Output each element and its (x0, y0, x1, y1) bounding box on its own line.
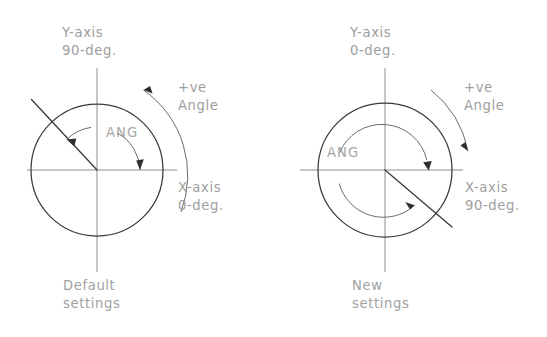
angle-arc-arrowhead-start-new (405, 202, 414, 210)
angle-arc-arrowhead-end-new (423, 161, 432, 170)
panel-caption-line1-default: Default (63, 278, 115, 293)
angle-convention-diagram: Y-axis 90-deg. X-axis 0-deg. +ve Angle A… (0, 0, 547, 337)
angle-label-new: ANG (327, 145, 359, 160)
x-axis-label-line2-default: 0-deg. (178, 198, 224, 213)
positive-direction-arc-new (431, 90, 468, 151)
x-axis-label-line1-new: X-axis (465, 180, 508, 195)
angle-arc-segment-left-default (67, 127, 91, 139)
positive-angle-label-line2-default: Angle (178, 98, 219, 113)
diagram-canvas: Y-axis 90-deg. X-axis 0-deg. +ve Angle A… (0, 0, 547, 337)
positive-angle-label-line2-new: Angle (464, 98, 505, 113)
panel-caption-line2-new: settings (352, 296, 409, 311)
panel-new: Y-axis 0-deg. X-axis 90-deg. +ve Angle A… (300, 25, 520, 311)
panel-caption-line2-default: settings (63, 296, 120, 311)
panel-default: Y-axis 90-deg. X-axis 0-deg. +ve Angle A… (27, 25, 224, 311)
x-axis-label-line1-default: X-axis (178, 180, 221, 195)
positive-angle-label-line1-default: +ve (178, 80, 207, 95)
angle-radial-line-new (385, 170, 452, 227)
panel-caption-line1-new: New (352, 278, 383, 293)
y-axis-label-line2-default: 90-deg. (62, 43, 117, 58)
positive-direction-arrowhead-default (144, 86, 153, 94)
y-axis-label-line1-new: Y-axis (349, 25, 391, 40)
angle-label-default: ANG (106, 125, 138, 140)
angle-arc-arrowhead-end-default (136, 159, 144, 170)
angle-arc-segment-lower-new (339, 184, 414, 218)
y-axis-label-line1-default: Y-axis (61, 25, 103, 40)
positive-angle-label-line1-new: +ve (464, 80, 493, 95)
y-axis-label-line2-new: 0-deg. (350, 43, 396, 58)
x-axis-label-line2-new: 90-deg. (465, 198, 520, 213)
